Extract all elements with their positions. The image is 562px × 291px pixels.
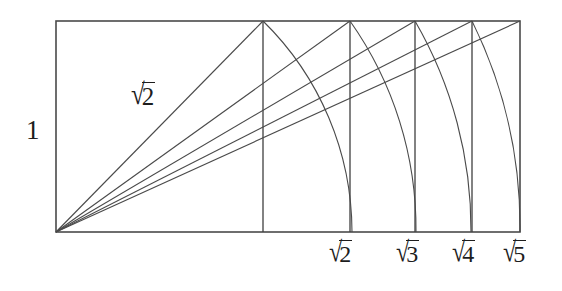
arc-1-to-sqrt2 — [263, 21, 352, 232]
baseline-label-sqrt4: √4 — [452, 240, 475, 266]
unit-height-label: 1 — [26, 117, 40, 144]
radical-sign-icon: √ — [131, 79, 144, 109]
arc-sqrt4-to-sqrt5 — [472, 21, 520, 232]
radical-group: √5 — [503, 240, 526, 266]
baseline-label-sqrt2: √2 — [329, 240, 352, 266]
radical-sign-icon: √ — [503, 237, 515, 265]
diagonal-to-1 — [56, 21, 263, 232]
figure-canvas: 1 √2 √2 √3 √4 √5 — [0, 0, 562, 291]
arcs-group — [263, 21, 520, 232]
diagonal-sqrt2-label: √2 — [131, 82, 155, 109]
diagonal-lines-group — [56, 21, 520, 232]
baseline-label-sqrt5: √5 — [503, 240, 526, 266]
diagonal-to-sqrt5 — [56, 21, 520, 232]
diagonal-to-sqrt4 — [56, 21, 472, 232]
arc-sqrt3-to-sqrt4 — [415, 21, 471, 232]
radical-sign-icon: √ — [452, 237, 464, 265]
spiral-of-theodorus-diagram — [0, 0, 562, 291]
radical-group: √2 — [329, 240, 352, 266]
vertical-lines-group — [263, 21, 472, 232]
arc-sqrt2-to-sqrt3 — [350, 21, 416, 232]
radical-sign-icon: √ — [329, 237, 341, 265]
baseline-label-sqrt3: √3 — [396, 240, 419, 266]
radical-group: √2 — [131, 82, 155, 109]
radical-sign-icon: √ — [396, 237, 408, 265]
radical-group: √4 — [452, 240, 475, 266]
diagonal-to-sqrt2 — [56, 21, 350, 232]
diagonal-to-sqrt3 — [56, 21, 415, 232]
radical-group: √3 — [396, 240, 419, 266]
